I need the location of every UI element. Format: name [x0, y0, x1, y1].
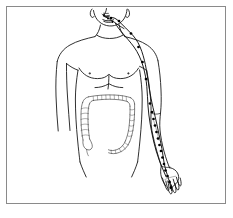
acupoint-li14	[149, 102, 152, 105]
right-arm-outer-line	[56, 62, 58, 132]
acupoint-li19	[118, 20, 121, 23]
face-point-face-1	[103, 14, 105, 16]
body-outline	[56, 9, 181, 194]
acupoint-group	[110, 17, 173, 189]
acupoint-li4	[164, 169, 167, 172]
neck-left-line	[95, 25, 101, 37]
right-nipple	[128, 73, 130, 75]
acupoint-li15	[145, 78, 148, 81]
left-arm-outer-line	[158, 61, 170, 168]
acupoint-li2	[168, 181, 171, 184]
acupoint-li18	[130, 32, 133, 35]
left-nipple	[89, 73, 91, 75]
meridian-main-line	[111, 17, 172, 190]
left-shoulder-line	[57, 37, 95, 62]
sternum-line	[108, 75, 109, 89]
face-point-face-3	[112, 21, 114, 23]
acupoint-li16	[141, 61, 144, 64]
lower-lip-line	[104, 21, 113, 22]
right-arm-inner-line	[66, 64, 70, 131]
left-colic-flexure	[130, 98, 134, 104]
right-colic-flexure-inner	[89, 100, 93, 104]
right-armpit-line	[67, 64, 79, 71]
finger-ring	[173, 179, 179, 190]
rib-right-line	[109, 84, 122, 88]
rib-left-line	[95, 84, 108, 88]
descending-colon-haustra	[128, 109, 135, 136]
right-colic-flexure	[83, 97, 89, 103]
transverse-colon-lower	[93, 99, 127, 101]
appendix-outline	[87, 149, 89, 155]
acupoint-li8	[158, 144, 161, 147]
large-intestine-organ	[81, 95, 135, 156]
hip-left-line	[80, 162, 86, 177]
torso-right-side	[138, 70, 143, 162]
hip-right-line	[132, 162, 138, 177]
acupoint-li11	[154, 124, 157, 127]
caecum-outline	[83, 139, 92, 150]
meridian-figure-root	[0, 0, 233, 218]
face-point-face-2	[107, 18, 109, 20]
right-shoulder-line	[125, 37, 158, 61]
ascending-colon-inner	[88, 104, 90, 139]
transverse-colon-upper	[89, 95, 131, 98]
acupoint-li13	[151, 111, 154, 114]
acupoint-li12	[152, 118, 155, 121]
acupoint-li20	[110, 17, 113, 20]
acupoint-li17	[137, 46, 140, 49]
acupoint-li1	[170, 186, 173, 189]
neck-base-line	[97, 35, 123, 39]
left-pectoral-line	[79, 68, 108, 79]
acupoint-li3	[166, 175, 169, 178]
torso-left-side	[75, 70, 80, 162]
acupoint-li5	[163, 163, 166, 166]
acupoint-li10	[155, 131, 158, 134]
meridian-neck-branch	[107, 17, 124, 28]
acupoint-li6	[161, 156, 164, 159]
figure-canvas	[0, 0, 233, 218]
acupoint-li7	[160, 150, 163, 153]
acupoint-li9	[157, 137, 160, 140]
right-pectoral-line	[109, 68, 138, 79]
left-colic-flexure-inner	[127, 102, 130, 107]
